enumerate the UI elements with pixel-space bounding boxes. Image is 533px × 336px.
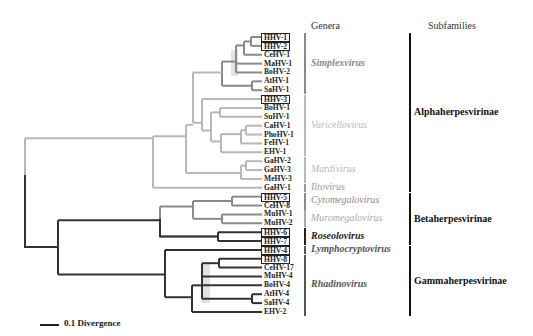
leaf-label: CeHV-8	[264, 202, 290, 210]
genus-bar	[304, 33, 306, 94]
leaf-label: BoHV-2	[264, 68, 290, 76]
genus-label: Simplexvirus	[311, 57, 365, 68]
leaf-label: AtHV-4	[264, 290, 289, 298]
leaf-label: MuHV-4	[264, 272, 293, 280]
leaf-label: GaHV-3	[264, 166, 291, 174]
genus-bar	[304, 95, 306, 156]
leaf-label: BoHV-1	[264, 104, 290, 112]
genus-bar	[304, 255, 306, 316]
leaf-label: AtHV-1	[264, 77, 289, 85]
leaf-label: MeHV-3	[264, 175, 292, 183]
subfamily-label: Betaherpesvirinae	[414, 213, 492, 224]
leaf-label: GaHV-1	[264, 184, 291, 192]
genus-label: Rhadinovirus	[311, 278, 367, 289]
genus-bar	[304, 228, 306, 245]
genus-bar	[304, 210, 306, 227]
subfamily-bar	[409, 246, 411, 316]
leaf-label: HHV-4	[261, 246, 290, 255]
leaf-label: HHV-1	[261, 33, 290, 42]
leaf-label: EHV-2	[264, 308, 286, 316]
genus-bar	[304, 193, 306, 210]
genus-label: Iltovirus	[311, 181, 345, 192]
leaf-label: HHV-7	[261, 237, 290, 246]
scale-label: 0.1 Divergence	[64, 318, 120, 328]
leaf-label: CaHV-1	[264, 122, 290, 130]
leaf-label: MuHV-2	[264, 219, 293, 227]
leaf-label: MuHV-1	[264, 210, 293, 218]
scale-bar	[40, 324, 59, 326]
genus-bar	[304, 157, 306, 183]
leaf-label: HHV-6	[261, 228, 290, 237]
leaf-label: FeHV-1	[264, 139, 289, 147]
subfamily-label: Gammaherpesvirinae	[414, 275, 507, 286]
genus-label: Muromegalovirus	[311, 212, 382, 223]
genera-header: Genera	[311, 20, 340, 31]
leaf-label: PhoHV-1	[264, 131, 294, 139]
genus-label: Lymphocryptovirus	[311, 243, 391, 254]
subfamily-label: Alphaherpesvirinae	[414, 106, 498, 117]
leaf-label: GaHV-2	[264, 157, 291, 165]
subfamily-bar	[409, 193, 411, 245]
subfamily-bar	[409, 33, 411, 192]
leaf-label: SaHV-1	[264, 86, 289, 94]
genus-label: Mardivirus	[311, 163, 356, 174]
subfamilies-header: Subfamilies	[428, 20, 476, 31]
leaf-label: CeHV-1	[264, 51, 290, 59]
leaf-label: BoHV-4	[264, 281, 290, 289]
leaf-label: SaHV-4	[264, 299, 289, 307]
genus-bar	[304, 184, 306, 192]
genus-label: Cytomegalovirus	[311, 194, 379, 205]
genus-label: Varicellovirus	[311, 119, 367, 130]
leaf-label: MaHV-1	[264, 60, 292, 68]
leaf-label: EHV-1	[264, 148, 286, 156]
genus-bar	[304, 246, 306, 254]
leaf-label: SuHV-1	[264, 113, 290, 121]
genus-label: Roseolovirus	[311, 230, 364, 241]
leaf-label: CeHV-17	[264, 264, 294, 272]
